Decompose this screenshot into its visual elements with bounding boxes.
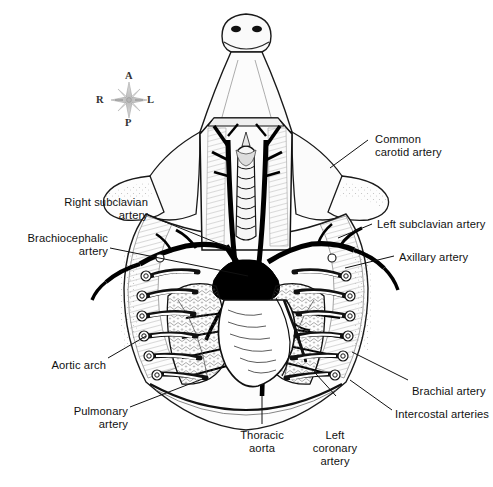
orientation-compass xyxy=(111,82,147,118)
label-right-subclavian-artery: Right subclavian artery xyxy=(0,196,148,222)
label-aortic-arch: Aortic arch xyxy=(0,359,106,372)
label-left-coronary-artery: Left coronary artery xyxy=(304,429,366,469)
leader-intercostal xyxy=(350,380,392,410)
label-common-carotid-artery: Common carotid artery xyxy=(375,133,442,159)
neck-dissection-window xyxy=(200,118,292,250)
label-brachial-artery: Brachial artery xyxy=(412,385,486,398)
leader-brachial xyxy=(352,352,408,380)
label-axillary-artery: Axillary artery xyxy=(399,251,468,264)
label-pulmonary-artery: Pulmonary artery xyxy=(0,405,128,431)
label-left-subclavian-artery: Left subclavian artery xyxy=(377,218,486,231)
label-intercostal-arteries: Intercostal arteries xyxy=(395,408,489,421)
leader-common-carotid xyxy=(330,140,368,168)
compass-posterior-letter: P xyxy=(125,117,131,128)
label-thoracic-aorta: Thoracic aorta xyxy=(220,429,304,455)
compass-anterior-letter: A xyxy=(125,70,133,81)
label-brachiocephalic-artery: Brachiocephalic artery xyxy=(0,232,108,258)
figure-canvas: A R L P Common carotid artery Right subc… xyxy=(0,0,493,487)
compass-left-letter: L xyxy=(147,94,154,105)
compass-right-letter: R xyxy=(96,94,104,105)
